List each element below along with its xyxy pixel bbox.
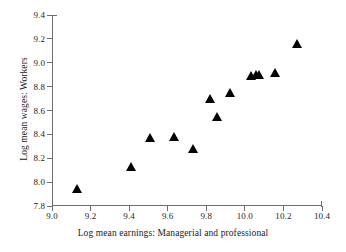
data-point-marker — [188, 144, 198, 153]
y-axis-tick — [47, 38, 52, 39]
x-axis-title: Log mean earnings: Managerial and profes… — [0, 228, 346, 238]
y-axis-tick — [47, 134, 52, 135]
data-point-marker — [254, 70, 264, 79]
x-axis-tick-label: 9.2 — [76, 211, 106, 221]
y-axis-tick — [47, 158, 52, 159]
y-axis-tick-label: 7.8 — [19, 201, 45, 211]
data-point-marker — [205, 94, 215, 103]
x-axis-tick-label: 9.0 — [37, 211, 67, 221]
y-axis-tick — [47, 86, 52, 87]
y-axis-top-cap — [52, 15, 57, 16]
data-point-marker — [169, 132, 179, 141]
y-axis-title: Log mean wages: Workers — [19, 19, 29, 199]
data-point-marker — [292, 39, 302, 48]
data-point-marker — [126, 162, 136, 171]
y-axis-tick — [47, 15, 52, 16]
x-axis-tick-label: 10.0 — [230, 211, 260, 221]
x-axis-tick-label: 10.2 — [268, 211, 298, 221]
x-axis-tick-label: 9.6 — [153, 211, 183, 221]
data-point-marker — [145, 133, 155, 142]
x-axis-tick-label: 9.4 — [114, 211, 144, 221]
x-axis-tick-label: 10.4 — [307, 211, 337, 221]
data-point-marker — [225, 88, 235, 97]
data-point-marker — [212, 112, 222, 121]
data-point-marker — [72, 184, 82, 193]
y-axis-tick — [47, 182, 52, 183]
scatter-chart-figure: 7.88.08.28.48.68.89.09.29.4 9.09.29.49.6… — [0, 0, 346, 252]
y-axis-tick — [47, 110, 52, 111]
x-axis-tick-label: 9.8 — [191, 211, 221, 221]
plot-area — [52, 15, 322, 206]
data-point-marker — [270, 68, 280, 77]
y-axis-tick — [47, 62, 52, 63]
